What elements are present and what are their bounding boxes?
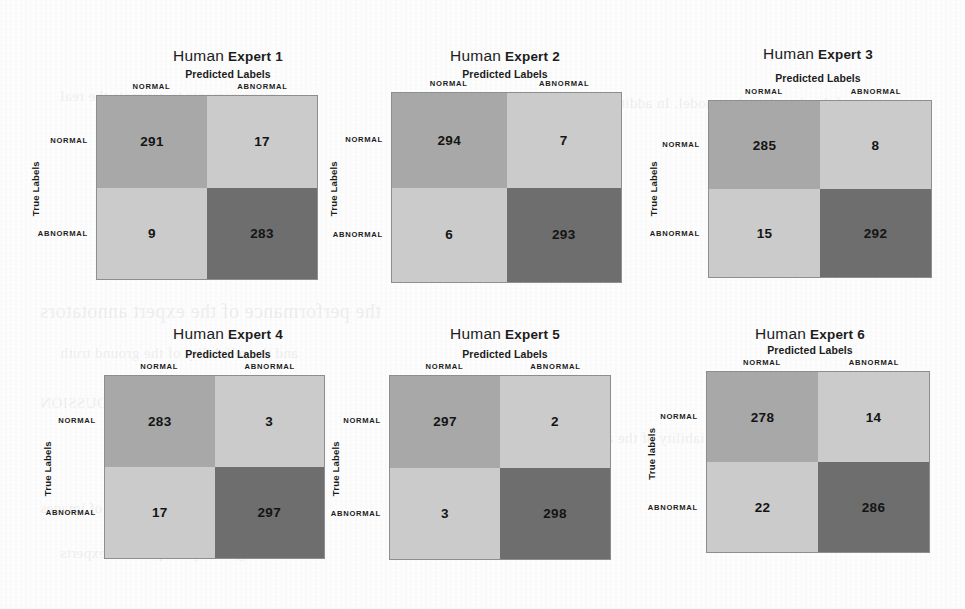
y-axis-title-6: True labels	[647, 414, 657, 494]
matrix-grid-4: 283317297	[104, 375, 325, 559]
cell-true-negative-2: 294	[392, 93, 507, 188]
confusion-matrix-panel-6: HumanExpert 6Predicted LabelsNORMALABNOR…	[0, 0, 965, 609]
cell-false-positive-1: 17	[207, 96, 317, 188]
x-tick-label-abnormal: ABNORMAL	[215, 363, 326, 375]
x-tick-label-abnormal: ABNORMAL	[507, 80, 623, 92]
panel-title-secondary: Expert 3	[818, 47, 873, 62]
panel-title-primary: Human	[450, 47, 501, 64]
panel-title-primary: Human	[173, 325, 224, 342]
x-tick-label-normal: NORMAL	[708, 88, 820, 100]
matrix-grid-2: 29476293	[391, 92, 622, 283]
x-tick-label-abnormal: ABNORMAL	[207, 83, 318, 95]
x-tick-row-1: NORMALABNORMAL	[96, 79, 318, 95]
cell-true-negative-4: 283	[105, 376, 215, 467]
x-axis-title-4: Predicted Labels	[88, 349, 368, 360]
panel-title-secondary: Expert 2	[505, 49, 560, 64]
panel-title-secondary: Expert 5	[505, 327, 560, 342]
cell-true-positive-5: 298	[500, 468, 610, 560]
y-tick-label-normal-2: NORMAL	[313, 136, 383, 144]
y-tick-label-normal-5: NORMAL	[311, 417, 381, 425]
y-tick-label-abnormal-5: ABNORMAL	[311, 510, 381, 518]
plot-area-3: NORMALABNORMAL285815292	[708, 84, 932, 278]
x-tick-row-6: NORMALABNORMAL	[706, 355, 930, 371]
y-axis-title-2: True Labels	[329, 149, 339, 229]
cell-false-positive-2: 7	[507, 93, 622, 188]
y-tick-label-normal-3: NORMAL	[630, 141, 700, 149]
plot-area-2: NORMALABNORMAL29476293	[391, 76, 622, 283]
cell-true-negative-5: 297	[390, 376, 500, 468]
cell-false-negative-3: 15	[709, 189, 820, 277]
cell-true-positive-4: 297	[215, 467, 325, 558]
panel-title-secondary: Expert 6	[810, 327, 865, 342]
panel-title-1: HumanExpert 1	[88, 48, 368, 64]
x-axis-title-5: Predicted Labels	[365, 349, 645, 360]
cell-false-negative-1: 9	[97, 188, 207, 280]
panel-title-primary: Human	[173, 47, 224, 64]
cell-true-negative-1: 291	[97, 96, 207, 188]
cell-false-negative-2: 6	[392, 188, 507, 283]
y-tick-label-abnormal-6: ABNORMAL	[628, 504, 698, 512]
cell-true-positive-2: 293	[507, 188, 622, 283]
panel-title-6: HumanExpert 6	[670, 326, 950, 342]
panel-title-4: HumanExpert 4	[88, 326, 368, 342]
x-tick-row-3: NORMALABNORMAL	[708, 84, 932, 100]
x-tick-label-normal: NORMAL	[706, 359, 818, 371]
y-axis-title-1: True Labels	[31, 149, 41, 229]
y-tick-label-abnormal-1: ABNORMAL	[18, 230, 88, 238]
cell-true-positive-3: 292	[820, 189, 931, 277]
panel-title-2: HumanExpert 2	[365, 48, 645, 64]
cell-false-negative-6: 22	[707, 462, 818, 552]
plot-area-6: NORMALABNORMAL2781422286	[706, 355, 930, 553]
cell-false-positive-5: 2	[500, 376, 610, 468]
x-axis-title-6: Predicted Labels	[670, 345, 950, 356]
y-axis-title-5: True Labels	[331, 429, 341, 509]
panel-title-primary: Human	[450, 325, 501, 342]
panel-title-3: HumanExpert 3	[678, 46, 958, 62]
matrix-grid-1: 291179283	[96, 95, 318, 280]
matrix-grid-6: 2781422286	[706, 371, 930, 553]
x-tick-label-normal: NORMAL	[104, 363, 215, 375]
confusion-matrix-panel-4: HumanExpert 4Predicted LabelsNORMALABNOR…	[0, 0, 965, 609]
panel-title-secondary: Expert 4	[228, 327, 283, 342]
confusion-matrix-panel-2: HumanExpert 2Predicted LabelsNORMALABNOR…	[0, 0, 965, 609]
x-tick-label-abnormal: ABNORMAL	[818, 359, 930, 371]
plot-area-1: NORMALABNORMAL291179283	[96, 79, 318, 280]
x-axis-title-3: Predicted Labels	[678, 73, 958, 84]
x-axis-title-2: Predicted Labels	[365, 69, 645, 80]
panel-title-primary: Human	[763, 45, 814, 62]
matrix-grid-3: 285815292	[708, 100, 932, 278]
cell-false-negative-5: 3	[390, 468, 500, 560]
panel-title-secondary: Expert 1	[228, 49, 283, 64]
x-tick-label-normal: NORMAL	[391, 80, 507, 92]
x-tick-row-2: NORMALABNORMAL	[391, 76, 622, 92]
confusion-matrix-panel-1: HumanExpert 1Predicted LabelsNORMALABNOR…	[0, 0, 965, 609]
x-tick-label-abnormal: ABNORMAL	[820, 88, 932, 100]
matrix-grid-5: 29723298	[389, 375, 611, 560]
y-tick-label-normal-6: NORMAL	[628, 413, 698, 421]
confusion-matrix-panel-3: HumanExpert 3Predicted LabelsNORMALABNOR…	[0, 0, 965, 609]
y-tick-label-normal-4: NORMAL	[26, 417, 96, 425]
cell-true-positive-6: 286	[818, 462, 929, 552]
confusion-matrix-figure: HumanExpert 1Predicted LabelsNORMALABNOR…	[0, 0, 965, 609]
plot-area-4: NORMALABNORMAL283317297	[104, 359, 325, 559]
panel-title-primary: Human	[755, 325, 806, 342]
x-tick-label-normal: NORMAL	[389, 363, 500, 375]
cell-false-negative-4: 17	[105, 467, 215, 558]
x-tick-row-4: NORMALABNORMAL	[104, 359, 325, 375]
y-tick-label-abnormal-3: ABNORMAL	[630, 230, 700, 238]
panel-title-5: HumanExpert 5	[365, 326, 645, 342]
y-tick-label-abnormal-4: ABNORMAL	[26, 509, 96, 517]
confusion-matrix-panel-5: HumanExpert 5Predicted LabelsNORMALABNOR…	[0, 0, 965, 609]
cell-false-positive-4: 3	[215, 376, 325, 467]
plot-area-5: NORMALABNORMAL29723298	[389, 359, 611, 560]
y-tick-label-abnormal-2: ABNORMAL	[313, 231, 383, 239]
y-axis-title-4: True Labels	[43, 429, 53, 509]
y-axis-title-3: True Labels	[649, 149, 659, 229]
x-tick-label-normal: NORMAL	[96, 83, 207, 95]
cell-false-positive-3: 8	[820, 101, 931, 189]
cell-true-positive-1: 283	[207, 188, 317, 280]
y-tick-label-normal-1: NORMAL	[18, 137, 88, 145]
cell-true-negative-6: 278	[707, 372, 818, 462]
cell-false-positive-6: 14	[818, 372, 929, 462]
x-tick-label-abnormal: ABNORMAL	[500, 363, 611, 375]
